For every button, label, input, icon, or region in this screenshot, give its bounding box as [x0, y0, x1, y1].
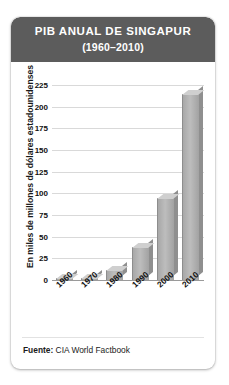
y-tick-label-175: 175	[35, 124, 48, 133]
bar-series	[52, 85, 204, 280]
plot-area: En miles de millones de dólares estadoun…	[11, 62, 215, 332]
y-tick-label-25: 25	[39, 254, 48, 263]
y-tick-label-0: 0	[44, 276, 48, 285]
footer-divider	[22, 337, 204, 338]
y-tick-label-100: 100	[35, 189, 48, 198]
source-value: CIA World Factbook	[56, 345, 130, 355]
bar-front-face	[157, 198, 174, 280]
plot-grid: 2252001751501251007550250	[52, 85, 204, 280]
y-tick-label-225: 225	[35, 81, 48, 90]
bar-2000	[157, 198, 173, 280]
chart-title: PIB ANUAL DE SINGAPUR	[11, 24, 215, 38]
source-label: Fuente:	[23, 345, 53, 355]
bar-front-face	[182, 94, 199, 280]
y-tick-label-75: 75	[39, 211, 48, 220]
chart-subtitle: (1960–2010)	[11, 40, 215, 54]
x-axis-labels: 196019701980199020002010	[52, 282, 204, 322]
chart-header: PIB ANUAL DE SINGAPUR (1960–2010)	[11, 17, 215, 62]
y-tick-label-50: 50	[39, 232, 48, 241]
bar-2010	[182, 94, 198, 280]
y-tick-label-150: 150	[35, 146, 48, 155]
y-tick-label-200: 200	[35, 102, 48, 111]
y-tick-label-125: 125	[35, 167, 48, 176]
y-axis-title: En miles de millones de dólares estadoun…	[25, 72, 35, 268]
chart-card: PIB ANUAL DE SINGAPUR (1960–2010) En mil…	[11, 17, 215, 369]
source-footer: Fuente: CIA World Factbook	[23, 345, 130, 355]
